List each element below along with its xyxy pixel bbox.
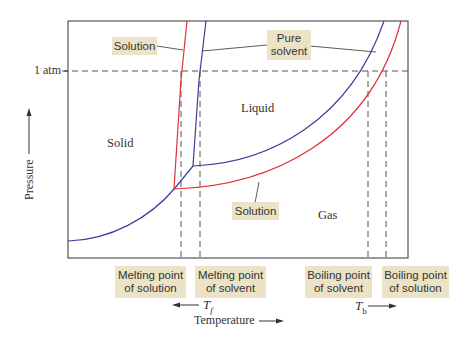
pressure-arrow [27,108,32,154]
pure-solvent-leader-left [202,45,267,51]
tf-arrow [172,303,199,308]
bp-solution-line1: Boiling point [384,269,447,282]
pure-solvent-line1: Pure [277,32,301,45]
bp-solvent-label: Boiling point of solvent [305,266,372,298]
mp-solution-label: Melting point of solution [115,266,186,298]
temperature-axis-label: Temperature [194,313,254,328]
mp-solution-line1: Melting point [118,269,183,282]
tb-sub: b [362,306,367,316]
mp-solvent-label: Melting point of solvent [195,266,266,298]
bp-solvent-line1: Boiling point [307,269,370,282]
solvent-sublimation-curve [68,188,175,241]
solution-top-leader [157,46,183,50]
solvent-triple-link [175,166,193,188]
pressure-axis-label: Pressure [22,150,37,200]
mp-solvent-line2: of solvent [206,282,255,295]
pure-solvent-label: Pure solvent [267,30,311,60]
tb-arrow [368,304,397,309]
bp-solution-label: Boiling point of solution [382,266,449,298]
tf-symbol: Tf [203,297,213,315]
region-gas: Gas [318,208,337,223]
mp-solution-line2: of solution [124,282,176,295]
region-solid: Solid [107,136,133,151]
bp-solvent-line2: of solvent [314,282,363,295]
temperature-arrow [259,319,284,324]
mp-solvent-line1: Melting point [198,269,263,282]
region-liquid: Liquid [241,101,274,116]
bp-solution-line2: of solution [389,282,441,295]
one-atm-label: 1 atm [34,63,61,78]
tb-symbol: Tb [355,298,367,316]
solution-bottom-label: Solution [232,202,279,220]
solution-top-label: Solution [112,37,157,55]
pure-solvent-line2: solvent [271,45,307,58]
solution-bottom-leader [255,182,259,203]
pure-solvent-leader-right [310,46,376,52]
